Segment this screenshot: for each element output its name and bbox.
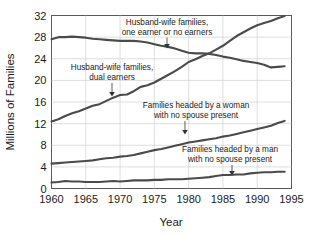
y-tick-label: 4 (40, 161, 46, 173)
x-tick-label: 1995 (279, 193, 303, 205)
annot-dual-earners-line2: dual earners (89, 73, 135, 82)
annot-dual-earners-line1: Husband-wife families, (71, 63, 153, 72)
y-tick-label: 20 (34, 74, 46, 86)
x-tick-label: 1980 (176, 193, 200, 205)
y-tick-label: 8 (40, 139, 46, 151)
y-tick-label: 28 (34, 31, 46, 43)
annot-one-earner-line2: one earner or no earners (122, 28, 213, 37)
annot-woman-headed-line1: Families headed by a woman (143, 101, 250, 110)
x-tick-label: 1960 (39, 193, 63, 205)
annot-woman-headed-line2: with no spouse present (153, 111, 239, 120)
annot-one-earner-line1: Husband-wife families, (126, 18, 208, 27)
y-axis-ticks: 048121620242832 (34, 10, 46, 195)
y-tick-label: 32 (34, 10, 46, 22)
line-chart: 048121620242832 196019651970197519801985… (0, 0, 315, 236)
chart-container: 048121620242832 196019651970197519801985… (0, 0, 315, 236)
y-axis-title: Millions of Families (4, 53, 16, 150)
x-axis-title: Year (159, 216, 182, 228)
y-tick-label: 16 (34, 96, 46, 108)
y-tick-label: 24 (34, 53, 46, 65)
x-tick-label: 1985 (211, 193, 235, 205)
x-axis-ticks: 19601965197019751980198519901995 (39, 193, 303, 205)
x-tick-label: 1975 (142, 193, 166, 205)
x-tick-label: 1970 (108, 193, 132, 205)
annot-man-headed-line2: with no spouse present (187, 155, 273, 164)
y-tick-label: 12 (34, 118, 46, 130)
annot-man-headed-line1: Families headed by a man (182, 145, 278, 154)
x-tick-label: 1965 (74, 193, 98, 205)
x-tick-label: 1990 (245, 193, 269, 205)
